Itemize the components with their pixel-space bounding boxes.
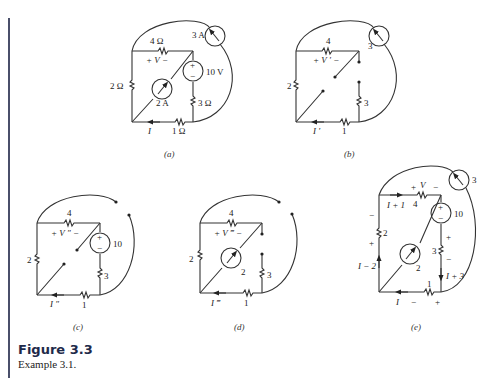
figure-3-3-circuits: 4 Ω 2 Ω 3 Ω 1 Ω 10 V + − 2 A 3 A + V − I… — [0, 0, 504, 378]
label-2: 2 — [27, 255, 32, 265]
label-4-ohm: 4 Ω — [150, 36, 164, 46]
minus-sign: − — [190, 71, 195, 81]
plus-sign: + — [435, 297, 440, 307]
minus-sign: − — [411, 297, 416, 307]
label-3: 3 — [432, 246, 437, 256]
minus-sign: − — [446, 254, 451, 264]
figure-caption: Example 3.1. — [18, 358, 76, 370]
label-2: 2 — [383, 228, 388, 238]
resistor-1-ohm — [132, 119, 193, 125]
plus-sign: + — [446, 232, 451, 242]
label-current-i-double-prime: I ″ — [49, 299, 59, 309]
label-3-source: 3 — [368, 41, 373, 51]
label-current-i: I — [395, 297, 400, 307]
minus-sign: − — [369, 210, 374, 220]
label-voltage-v: V — [420, 180, 427, 190]
label-voltage-v-double-prime: + V ″ − — [51, 228, 79, 238]
minus-sign: − — [438, 213, 443, 223]
minus-sign: − — [97, 243, 102, 253]
label-1: 1 — [244, 298, 249, 308]
label-4: 4 — [413, 199, 418, 209]
label-current-i: I — [147, 126, 152, 136]
label-10: 10 — [454, 209, 464, 219]
label-i-plus-1: I + 1 — [386, 200, 405, 210]
circuit-d — [198, 195, 297, 296]
label-3a: 3 A — [192, 30, 205, 40]
label-2-source: 2 — [241, 267, 246, 277]
label-2a: 2 A — [156, 98, 169, 108]
plus-sign: + — [190, 60, 195, 70]
label-voltage-v: + V − — [146, 55, 168, 65]
label-3: 3 — [267, 270, 272, 280]
resistor-4-ohm — [132, 48, 193, 54]
label-i-minus-2: I − 2 — [357, 261, 377, 271]
panel-label-d: (d) — [234, 322, 245, 332]
label-1-ohm: 1 Ω — [172, 126, 186, 136]
label-3-source: 3 — [472, 175, 477, 185]
panel-label-c: (c) — [73, 322, 83, 332]
plus-sign: + — [97, 232, 102, 242]
panel-label-b: (b) — [344, 149, 355, 159]
label-3: 3 — [104, 271, 109, 281]
label-4: 4 — [67, 208, 72, 218]
label-1: 1 — [427, 279, 432, 289]
label-current-i-prime: I ′ — [312, 126, 321, 136]
label-10v: 10 V — [206, 67, 224, 77]
figure-title: Figure 3.3 — [18, 342, 93, 357]
label-2: 2 — [287, 81, 292, 91]
circuit-b — [294, 21, 396, 125]
label-4: 4 — [326, 36, 331, 46]
label-2: 2 — [189, 254, 194, 264]
label-10: 10 — [113, 239, 123, 249]
label-3: 3 — [364, 98, 369, 108]
resistor-2-ohm — [130, 51, 134, 122]
plus-sign: + — [369, 238, 374, 248]
label-3-ohm: 3 Ω — [198, 98, 212, 108]
minus-sign: − — [433, 182, 438, 192]
label-voltage-v-prime: + V ′ − — [313, 55, 339, 65]
label-2-ohm: 2 Ω — [110, 81, 124, 91]
label-4: 4 — [229, 208, 234, 218]
label-2-source: 2 — [416, 263, 421, 273]
panel-label-a: (a) — [164, 149, 175, 159]
label-current-i-triple-prime: I ‴ — [210, 298, 221, 308]
label-1: 1 — [342, 126, 347, 136]
label-voltage-v-triple-prime: + V ‴ − — [214, 228, 242, 238]
plus-sign: + — [411, 182, 416, 192]
plus-sign: + — [438, 202, 443, 212]
label-1: 1 — [82, 300, 87, 310]
panel-label-e: (e) — [411, 322, 421, 332]
label-i-plus-3: I + 3 — [445, 271, 465, 281]
